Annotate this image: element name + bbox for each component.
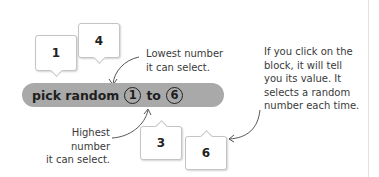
result-bubble-3: 3: [140, 126, 182, 160]
block-label: pick random: [32, 88, 119, 103]
bubble-value: 1: [52, 46, 60, 60]
note-line: you its value. It: [264, 72, 359, 86]
bubble-value: 4: [95, 34, 103, 48]
click-note: If you click on the block, it will tell …: [264, 45, 359, 113]
result-bubble-4: 4: [78, 23, 120, 58]
result-bubble-6: 6: [185, 136, 227, 170]
note-line: Lowest number: [146, 47, 223, 61]
to-value: 6: [170, 88, 178, 102]
bubble-value: 3: [157, 136, 165, 150]
block-connector: to: [146, 88, 161, 103]
result-bubble-1: 1: [35, 35, 77, 71]
note-line: block, it will tell: [264, 59, 359, 73]
note-line: number each time.: [264, 99, 359, 113]
bubble-value: 6: [202, 146, 210, 160]
lowest-note: Lowest number it can select.: [146, 47, 223, 74]
note-line: it can select.: [146, 61, 223, 75]
to-input[interactable]: 6: [166, 87, 183, 104]
note-line: If you click on the: [264, 45, 359, 59]
note-line: it can select.: [30, 153, 110, 167]
note-line: Highest number: [30, 126, 110, 153]
note-line: selects a random: [264, 86, 359, 100]
highest-note: Highest number it can select.: [30, 126, 110, 167]
from-input[interactable]: 1: [124, 87, 141, 104]
from-value: 1: [129, 88, 137, 102]
pick-random-block[interactable]: pick random 1 to 6: [22, 83, 224, 107]
